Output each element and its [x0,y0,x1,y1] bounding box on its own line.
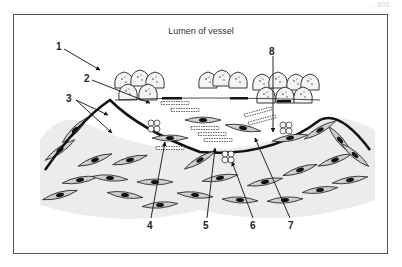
atherosclerotic-plaque-diagram: 1 2 3 4 5 6 7 8 [0,0,402,267]
label-1: 1 [56,41,62,52]
endothelial-cells [115,70,320,103]
label-8: 8 [269,46,275,57]
label-5: 5 [203,220,209,231]
label-3: 3 [66,93,72,104]
label-2: 2 [84,73,90,84]
label-7: 7 [288,220,294,231]
label-6: 6 [250,220,256,231]
label-4: 4 [147,220,153,231]
media-smooth-muscle-layer [40,115,375,219]
